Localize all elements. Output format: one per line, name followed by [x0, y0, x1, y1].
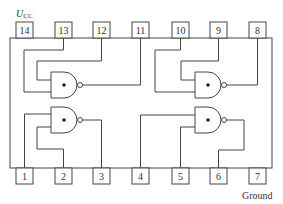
- top-pins: 14 13 12 11 10 9 8: [16, 22, 266, 38]
- svg-text:1: 1: [22, 171, 27, 182]
- svg-text:7: 7: [255, 171, 260, 182]
- ground-label: Ground: [242, 190, 273, 201]
- svg-text:13: 13: [59, 25, 69, 36]
- supply-label: UCC: [16, 8, 33, 20]
- svg-text:3: 3: [99, 171, 104, 182]
- nand-gate-bottom-left: [25, 107, 102, 168]
- svg-text:10: 10: [176, 25, 186, 36]
- svg-text:9: 9: [216, 25, 221, 36]
- svg-text:5: 5: [178, 171, 183, 182]
- nand-gate-bottom-right: [141, 107, 245, 168]
- svg-text:8: 8: [255, 25, 260, 36]
- svg-text:11: 11: [136, 25, 146, 36]
- svg-text:2: 2: [61, 171, 66, 182]
- svg-text:12: 12: [97, 25, 107, 36]
- svg-text:14: 14: [20, 25, 30, 36]
- nand-gate-top-right: [155, 38, 258, 98]
- svg-text:6: 6: [216, 171, 221, 182]
- bottom-pins: 1 2 3 4 5 6 7: [16, 168, 266, 184]
- svg-text:4: 4: [138, 171, 143, 182]
- ic-pinout-diagram: 14 13 12 11 10 9 8 1 2 3 4 5 6 7 UCC Gro…: [0, 0, 283, 204]
- nand-gate-top-left: [24, 38, 141, 98]
